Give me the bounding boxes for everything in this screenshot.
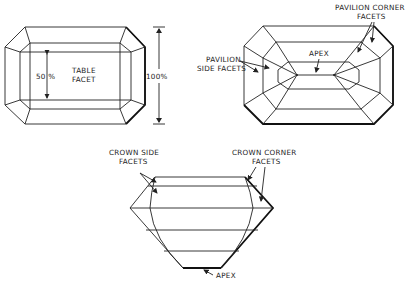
table-label-line1: TABLE (71, 66, 96, 75)
table-label-line2: FACET (72, 75, 96, 84)
pavilion-view: PAVILION SIDE FACETS APEX PAVILION CORNE… (197, 3, 405, 124)
pavilion-apex-label: APEX (309, 49, 329, 58)
pavilion-corner-label-line2: FACETS (357, 12, 386, 21)
total-width-label: 100% (146, 72, 168, 81)
pavilion-side-label-line2: SIDE FACETS (197, 64, 246, 73)
table-width-label: 50 % (36, 72, 55, 81)
crown-corner-label-line2: FACETS (252, 157, 281, 166)
side-profile-view: CROWN SIDE FACETS CROWN CORNER FACETS AP… (109, 148, 297, 280)
pavilion-corner-label-line1: PAVILION CORNER (335, 3, 405, 12)
emerald-cut-diagram: 50 % TABLE FACET 100% PAVILIO (0, 0, 414, 282)
crown-side-label-line2: FACETS (119, 157, 148, 166)
side-apex-label: APEX (216, 271, 236, 280)
crown-corner-label-line1: CROWN CORNER (232, 148, 297, 157)
crown-side-label-line1: CROWN SIDE (109, 148, 159, 157)
pavilion-side-label-line1: PAVILION (206, 55, 241, 64)
crown-top-view: 50 % TABLE FACET 100% (5, 27, 168, 124)
